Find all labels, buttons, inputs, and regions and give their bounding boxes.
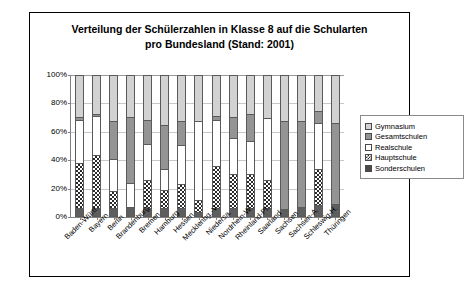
x-label-cell: Brandenburg — [121, 218, 138, 280]
bar-segment-haupt — [76, 164, 83, 209]
bar-segment-haupt — [93, 156, 100, 209]
stacked-bar[interactable] — [143, 75, 152, 217]
stacked-bar[interactable] — [331, 75, 340, 217]
legend-item-real[interactable]: Realschule — [365, 143, 460, 152]
bar-group — [293, 75, 310, 217]
stacked-bar[interactable] — [160, 75, 169, 217]
x-label-cell: Mecklenbg.-V. — [190, 218, 207, 280]
bar-group — [88, 75, 105, 217]
bar-segment-gym — [213, 76, 220, 117]
x-label-cell: Sachsen-A. — [293, 218, 310, 280]
legend-swatch-icon — [365, 133, 372, 140]
bar-segment-haupt — [195, 201, 202, 214]
bar-group — [139, 75, 156, 217]
bar-segment-real — [110, 160, 117, 192]
x-label-cell: Nordrhein-W. — [224, 218, 241, 280]
bar-segment-real — [315, 124, 322, 170]
stacked-bar[interactable] — [75, 75, 84, 217]
bar-segment-real — [247, 142, 254, 176]
bar-segment-gesamt — [161, 126, 168, 169]
bar-segment-gym — [178, 76, 185, 122]
chart-frame: Verteilung der Schülerzahlen in Klasse 8… — [29, 12, 410, 277]
x-label-cell: Bayern — [87, 218, 104, 280]
bar-segment-haupt — [110, 192, 117, 209]
stacked-bar[interactable] — [194, 75, 203, 217]
stacked-bar[interactable] — [92, 75, 101, 217]
bar-segment-real — [230, 139, 237, 175]
legend-item-haupt[interactable]: Hauptschule — [365, 153, 460, 162]
y-axis-tick-label: 0% — [55, 213, 67, 221]
bar-segment-gesamt — [247, 115, 254, 142]
bar-segment-real — [144, 145, 151, 181]
plot-region: 0%20%40%60%80%100% — [70, 75, 344, 218]
legend-item-label: Hauptschule — [375, 153, 417, 162]
x-label-cell: Baden-Württ. — [70, 218, 87, 280]
stacked-bar[interactable] — [229, 75, 238, 217]
bar-segment-gesamt — [298, 122, 305, 207]
y-axis-tick-label: 80% — [51, 99, 67, 107]
bar-series-container — [71, 75, 344, 217]
legend-item-gesamt[interactable]: Gesamtschulen — [365, 132, 460, 141]
bar-group — [208, 75, 225, 217]
y-axis-tick-label: 100% — [47, 71, 67, 79]
bar-segment-real — [264, 119, 271, 181]
bar-group — [225, 75, 242, 217]
x-label-cell: Rheinland-Pf. — [241, 218, 258, 280]
bar-segment-gym — [315, 76, 322, 112]
legend-item-label: Sonderschulen — [375, 164, 425, 173]
bar-group — [105, 75, 122, 217]
legend-swatch-icon — [365, 165, 372, 172]
bar-segment-gym — [144, 76, 151, 121]
bar-segment-gym — [247, 76, 254, 115]
bar-segment-haupt — [178, 185, 185, 209]
x-label-cell: Bremen — [139, 218, 156, 280]
y-axis-tick-label: 20% — [51, 185, 67, 193]
x-label-cell: Hamburg — [156, 218, 173, 280]
bar-segment-gesamt — [127, 118, 134, 184]
bar-group — [173, 75, 190, 217]
bar-group — [156, 75, 173, 217]
bar-segment-gesamt — [230, 118, 237, 139]
bar-group — [190, 75, 207, 217]
legend-item-label: Realschule — [375, 143, 412, 152]
y-axis-tick-label: 60% — [51, 128, 67, 136]
stacked-bar[interactable] — [212, 75, 221, 217]
legend-swatch-icon — [365, 144, 372, 151]
bar-segment-gesamt — [281, 122, 288, 210]
x-label-cell: Sachsen — [276, 218, 293, 280]
bar-segment-gym — [264, 76, 271, 119]
bar-segment-real — [127, 184, 134, 208]
bar-segment-gym — [93, 76, 100, 115]
bar-group — [242, 75, 259, 217]
bar-group — [276, 75, 293, 217]
x-label-cell: Saarland — [258, 218, 275, 280]
stacked-bar[interactable] — [263, 75, 272, 217]
bar-segment-gym — [332, 76, 339, 124]
stacked-bar[interactable] — [126, 75, 135, 217]
bar-segment-real — [161, 170, 168, 191]
bar-segment-real — [213, 121, 220, 167]
plot-area: 0%20%40%60%80%100% — [70, 75, 344, 218]
bar-group — [327, 75, 344, 217]
stacked-bar[interactable] — [297, 75, 306, 217]
legend-item-gym[interactable]: Gymnasium — [365, 122, 460, 131]
bar-segment-haupt — [161, 191, 168, 209]
stacked-bar[interactable] — [314, 75, 323, 217]
legend-item-sonder[interactable]: Sonderschulen — [365, 164, 460, 173]
x-label-cell: Berlin — [104, 218, 121, 280]
stacked-bar[interactable] — [177, 75, 186, 217]
bar-segment-gesamt — [144, 121, 151, 145]
legend-item-label: Gymnasium — [375, 122, 415, 131]
bar-segment-gym — [298, 76, 305, 122]
legend-swatch-icon — [365, 154, 372, 161]
stacked-bar[interactable] — [109, 75, 118, 217]
bar-segment-gym — [195, 76, 202, 122]
legend-swatch-icon — [365, 123, 372, 130]
bar-segment-gym — [161, 76, 168, 126]
bar-segment-gym — [230, 76, 237, 118]
stacked-bar[interactable] — [246, 75, 255, 217]
stacked-bar[interactable] — [280, 75, 289, 217]
bar-segment-gesamt — [178, 122, 185, 146]
bar-group — [259, 75, 276, 217]
bar-segment-gesamt — [332, 124, 339, 205]
